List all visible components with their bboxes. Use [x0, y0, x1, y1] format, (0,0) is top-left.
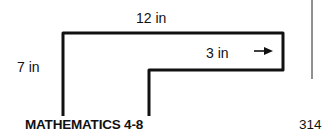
arm-width-label: 3 in: [206, 46, 229, 60]
arrow-right-icon: [254, 47, 273, 55]
page-number: 314: [299, 117, 322, 132]
top-width-label: 12 in: [136, 11, 166, 25]
height-label: 7 in: [17, 60, 40, 74]
footer-title: MATHEMATICS 4-8: [25, 117, 143, 132]
